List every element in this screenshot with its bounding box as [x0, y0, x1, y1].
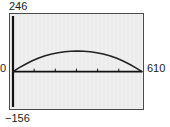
origin-label: 0 — [0, 62, 6, 74]
chart-figure: 246 −156 0 610 — [0, 0, 170, 127]
y-axis-max-label: 246 — [9, 0, 27, 12]
y-axis-min-label: −156 — [5, 112, 30, 124]
plot-frame — [9, 13, 144, 110]
x-axis-max-label: 610 — [147, 62, 165, 74]
data-series-curve — [13, 51, 142, 72]
plot-area — [10, 14, 143, 109]
